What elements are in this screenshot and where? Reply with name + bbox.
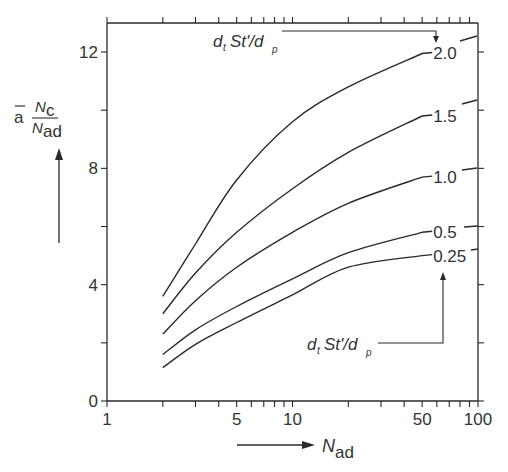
curve-tail: [462, 168, 477, 170]
curve-label: 0.5: [433, 223, 457, 242]
top-annotation-st: St'/d: [230, 32, 264, 51]
curve-label: 1.0: [433, 168, 457, 187]
y-axis-title: a N c N ad: [14, 98, 63, 243]
arrow-up-icon: [440, 272, 446, 280]
curve-tail: [471, 249, 478, 250]
arrow-up-icon: [55, 148, 63, 160]
y-title-num-sub: c: [46, 101, 55, 120]
x-tick-label: 1: [102, 410, 111, 429]
curve-tail: [464, 226, 478, 227]
x-title-n: N: [322, 436, 336, 456]
curve-0-25: [163, 255, 432, 368]
bottom-annotation-t: t: [317, 345, 321, 356]
curve-1-0: [163, 176, 432, 334]
bottom-annotation-p: p: [365, 347, 372, 358]
chart: 151050100 04812 2.01.51.00.50.25 d t St'…: [0, 0, 508, 472]
bottom-annotation: d t St'/d p: [307, 272, 446, 358]
y-tick-label: 8: [89, 159, 98, 178]
curve-1-5: [163, 115, 432, 314]
arrow-right-icon: [302, 441, 315, 449]
bottom-annotation-st: St'/d: [324, 335, 358, 354]
y-tick-label: 4: [89, 276, 98, 295]
top-annotation-t: t: [223, 42, 227, 53]
x-tick-label: 5: [232, 410, 241, 429]
bottom-annotation-arrow-line: [378, 278, 443, 343]
curve-label: 2.0: [433, 44, 457, 63]
bottom-annotation-d: d: [307, 335, 317, 354]
top-annotation-arrow-line: [282, 31, 436, 38]
plot-frame: [107, 23, 478, 401]
y-title-den: N: [32, 119, 43, 136]
curve-label: 1.5: [433, 107, 457, 126]
x-axis-title: N ad: [237, 436, 354, 462]
y-title-a: a: [14, 108, 24, 127]
top-annotation-p: p: [271, 44, 278, 55]
y-title-den-sub: ad: [43, 122, 62, 141]
y-ticks: 04812: [79, 43, 484, 411]
curve-label: 0.25: [433, 247, 466, 266]
x-tick-label: 10: [283, 410, 302, 429]
x-tick-label: 50: [413, 410, 432, 429]
y-tick-label: 12: [79, 43, 98, 62]
x-tick-label: 100: [464, 410, 492, 429]
curve-tail: [462, 100, 477, 104]
curve-labels: 2.01.51.00.50.25: [433, 44, 466, 265]
y-title-num: N: [35, 98, 46, 115]
top-annotation-d: d: [213, 32, 223, 51]
x-title-sub: ad: [335, 443, 354, 462]
arrow-down-icon: [433, 36, 439, 43]
curve-tail: [460, 36, 477, 41]
y-tick-label: 0: [89, 392, 98, 411]
curves: [163, 36, 478, 368]
top-annotation: d t St'/d p: [213, 31, 439, 55]
